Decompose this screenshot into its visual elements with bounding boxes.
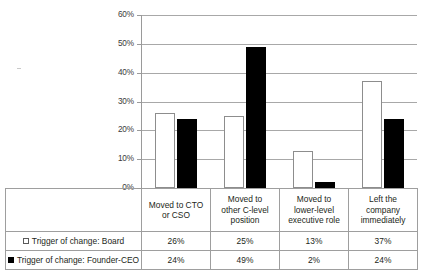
table-corner-blank <box>6 189 142 232</box>
y-tick-label: 30% <box>100 98 134 106</box>
page-speck <box>17 68 21 69</box>
table-row-board: Trigger of change: Board 26%25%13%37% <box>6 232 418 251</box>
category-label-line: Left the <box>349 194 417 205</box>
y-tick-mark <box>137 188 142 189</box>
bar-board-2 <box>224 116 244 188</box>
y-axis-tick-labels: 0%10%20%30%40%50%60% <box>96 0 134 200</box>
value-board-1: 26% <box>142 232 211 251</box>
category-label-3: Moved tolower-levelexecutive role <box>280 189 349 232</box>
y-tick-mark <box>137 73 142 74</box>
bar-board-4 <box>362 81 382 188</box>
bar-founder-4 <box>384 119 404 188</box>
category-label-line: or CSO <box>142 210 210 221</box>
chart-figure: 0%10%20%30%40%50%60% Moved to CTOor CSOM… <box>0 0 427 274</box>
y-tick-label: 60% <box>100 11 134 19</box>
legend-swatch-board-icon <box>23 238 29 244</box>
y-tick-mark <box>137 15 142 16</box>
value-board-2: 25% <box>211 232 280 251</box>
value-founder-3: 2% <box>280 251 349 270</box>
table-row-founder: Trigger of change: Founder-CEO 24%49%2%2… <box>6 251 418 270</box>
legend-label-board: Trigger of change: Board <box>32 236 124 246</box>
y-tick-label: 40% <box>100 69 134 77</box>
category-header-row: Moved to CTOor CSOMoved toother C-levelp… <box>6 189 418 232</box>
category-label-4: Left thecompanyimmediately <box>349 189 418 232</box>
value-founder-4: 24% <box>349 251 418 270</box>
bar-founder-2 <box>246 47 266 188</box>
category-label-line: Moved to <box>211 194 279 205</box>
category-label-line: immediately <box>349 215 417 226</box>
legend-item-board: Trigger of change: Board <box>6 232 142 251</box>
plot-area <box>141 15 417 188</box>
category-label-line: executive role <box>280 215 348 226</box>
y-tick-mark <box>137 159 142 160</box>
category-label-1: Moved to CTOor CSO <box>142 189 211 232</box>
value-founder-2: 49% <box>211 251 280 270</box>
legend-swatch-founder-icon <box>8 257 14 263</box>
legend-label-founder: Trigger of change: Founder-CEO <box>17 255 139 265</box>
bar-board-1 <box>155 113 175 188</box>
y-tick-label: 20% <box>100 126 134 134</box>
value-board-3: 13% <box>280 232 349 251</box>
bar-board-3 <box>293 151 313 188</box>
category-label-line: other C-level <box>211 205 279 216</box>
bar-founder-1 <box>177 119 197 188</box>
y-tick-mark <box>137 102 142 103</box>
y-tick-mark <box>137 44 142 45</box>
category-label-line: lower-level <box>280 205 348 216</box>
category-label-line: position <box>211 215 279 226</box>
y-tick-mark <box>137 130 142 131</box>
category-label-2: Moved toother C-levelposition <box>211 189 280 232</box>
gridline-40pct <box>141 73 417 74</box>
gridline-50pct <box>141 44 417 45</box>
gridline-60pct <box>141 15 417 16</box>
category-label-line: Moved to <box>280 194 348 205</box>
data-table-body: Moved to CTOor CSOMoved toother C-levelp… <box>6 189 418 270</box>
category-label-line: Moved to CTO <box>142 200 210 211</box>
value-board-4: 37% <box>349 232 418 251</box>
data-table: Moved to CTOor CSOMoved toother C-levelp… <box>5 188 418 270</box>
y-tick-label: 10% <box>100 155 134 163</box>
category-label-line: company <box>349 205 417 216</box>
legend-item-founder: Trigger of change: Founder-CEO <box>6 251 142 270</box>
y-tick-label: 50% <box>100 40 134 48</box>
value-founder-1: 24% <box>142 251 211 270</box>
